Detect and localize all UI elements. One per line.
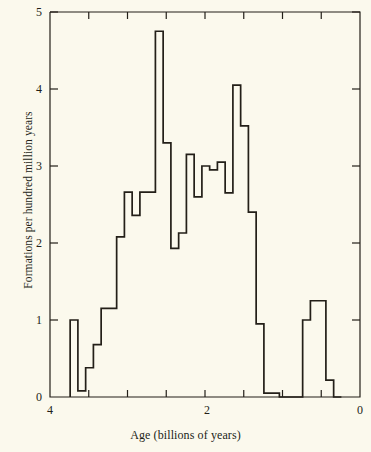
xtick-label-4: 4 (40, 403, 60, 418)
histogram-step-line (70, 31, 341, 397)
x-axis-label: Age (billions of years) (0, 428, 371, 443)
y-axis-label: Formations per hundred million years (22, 80, 34, 320)
ytick-label-5: 5 (28, 5, 42, 20)
histogram-plot (0, 0, 371, 452)
xtick-label-0: 0 (350, 403, 370, 418)
xtick-label-2: 2 (197, 403, 217, 418)
plot-frame (50, 12, 360, 397)
axis-ticks (50, 12, 360, 397)
chart-figure: 5 4 3 2 1 0 4 2 0 Formations per hundred… (0, 0, 371, 452)
